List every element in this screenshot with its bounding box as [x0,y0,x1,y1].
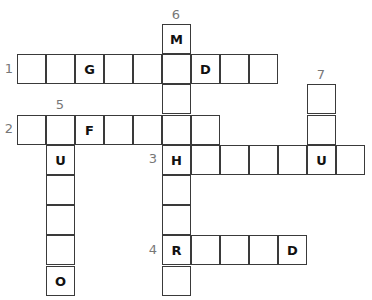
crossword-cell[interactable] [307,115,336,145]
crossword-cell[interactable] [191,145,220,175]
clue-number-3: 3 [146,151,160,166]
crossword-cell[interactable] [191,235,220,265]
crossword-cell[interactable] [46,235,75,265]
crossword-cell[interactable] [133,54,162,84]
crossword-cell[interactable] [162,266,191,296]
crossword-cell[interactable] [162,175,191,205]
crossword-cell[interactable] [220,235,249,265]
crossword-cell[interactable] [17,115,46,145]
crossword-cell[interactable] [46,54,75,84]
crossword-cell[interactable]: R [162,235,191,265]
crossword-cell[interactable] [220,145,249,175]
crossword-cell[interactable] [104,115,133,145]
crossword-cell[interactable] [336,145,365,175]
crossword-cell[interactable] [249,145,278,175]
crossword-cell[interactable]: D [278,235,307,265]
crossword-cell[interactable]: O [46,266,75,296]
crossword-cell[interactable] [278,145,307,175]
crossword-cell[interactable] [162,115,191,145]
crossword-cell[interactable] [220,54,249,84]
crossword-cell[interactable] [162,205,191,235]
crossword-cell[interactable] [249,235,278,265]
crossword-cell[interactable]: D [191,54,220,84]
crossword-cell[interactable] [133,115,162,145]
clue-number-4: 4 [146,242,160,257]
clue-number-6: 6 [169,7,183,22]
crossword-cell[interactable] [162,54,191,84]
crossword-cell[interactable]: M [162,24,191,54]
crossword-cell[interactable] [17,54,46,84]
crossword-cell[interactable] [249,54,278,84]
clue-number-1: 1 [2,61,16,76]
crossword-cell[interactable] [104,54,133,84]
clue-number-5: 5 [53,97,67,112]
crossword-cell[interactable] [307,84,336,114]
crossword-cell[interactable] [46,175,75,205]
crossword-cell[interactable] [46,115,75,145]
crossword-cell[interactable]: U [46,145,75,175]
crossword-cell[interactable]: U [307,145,336,175]
clue-number-7: 7 [314,67,328,82]
clue-number-2: 2 [2,121,16,136]
crossword-cell[interactable] [162,84,191,114]
crossword-cell[interactable]: F [75,115,104,145]
crossword-grid: 1234567GDFHURDUOM [0,0,372,300]
crossword-cell[interactable]: G [75,54,104,84]
crossword-cell[interactable] [191,115,220,145]
crossword-cell[interactable] [46,205,75,235]
crossword-cell[interactable]: H [162,145,191,175]
